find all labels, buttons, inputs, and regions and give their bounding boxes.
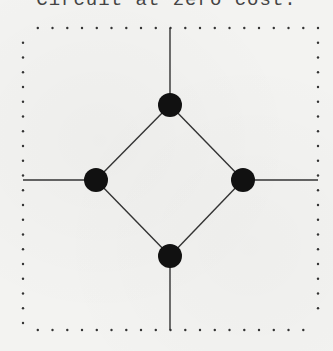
border-dot: [184, 329, 186, 331]
border-dot: [302, 27, 304, 29]
border-dot: [258, 329, 260, 331]
border-dot: [22, 189, 24, 191]
border-dot: [317, 263, 319, 265]
border-dot: [37, 329, 39, 331]
border-dot: [317, 189, 319, 191]
border-dot: [287, 329, 289, 331]
border-dot: [317, 145, 319, 147]
border-dot: [22, 233, 24, 235]
border-dot: [81, 27, 83, 29]
border-dot: [22, 307, 24, 309]
border-dot: [51, 27, 53, 29]
border-dot: [110, 329, 112, 331]
border-dot: [214, 329, 216, 331]
node-bottom: [158, 244, 182, 268]
border-dot: [140, 329, 142, 331]
border-dot: [66, 329, 68, 331]
border-dot: [317, 307, 319, 309]
node-top: [158, 93, 182, 117]
border-dot: [22, 263, 24, 265]
border-dot: [317, 248, 319, 250]
border-dot: [317, 219, 319, 221]
border-dot: [317, 71, 319, 73]
border-dot: [22, 248, 24, 250]
border-dot: [155, 329, 157, 331]
node-left: [84, 168, 108, 192]
border-dot: [228, 329, 230, 331]
border-dot: [96, 27, 98, 29]
edge-top-right: [170, 105, 243, 180]
diamond-circuit-diagram: [0, 0, 333, 351]
border-dot: [243, 27, 245, 29]
border-dot: [273, 329, 275, 331]
border-dot: [317, 130, 319, 132]
border-dot: [22, 174, 24, 176]
border-dot: [317, 292, 319, 294]
border-dot: [140, 27, 142, 29]
edge-right-bottom: [170, 180, 243, 256]
node-right: [231, 168, 255, 192]
border-dot: [22, 115, 24, 117]
border-dot: [81, 329, 83, 331]
border-dot: [199, 27, 201, 29]
border-dot: [214, 27, 216, 29]
border-dot: [317, 204, 319, 206]
border-dot: [22, 278, 24, 280]
border-dot: [317, 27, 319, 29]
border-dot: [317, 86, 319, 88]
border-dot: [22, 42, 24, 44]
border-dot: [302, 329, 304, 331]
border-dot: [22, 322, 24, 324]
edge-left-bottom: [96, 180, 170, 256]
border-dot: [243, 329, 245, 331]
border-dot: [22, 130, 24, 132]
edge-top-left: [96, 105, 170, 180]
circuit-nodes: [84, 93, 255, 268]
border-dot: [317, 233, 319, 235]
border-dot: [273, 27, 275, 29]
border-dot: [199, 329, 201, 331]
border-dot: [317, 160, 319, 162]
border-dot: [317, 101, 319, 103]
border-dot: [184, 27, 186, 29]
border-dot: [287, 27, 289, 29]
border-dot: [22, 292, 24, 294]
border-dot: [155, 27, 157, 29]
border-dot: [125, 329, 127, 331]
border-dot: [22, 56, 24, 58]
border-dot: [96, 329, 98, 331]
border-dot: [22, 219, 24, 221]
border-dot: [317, 174, 319, 176]
border-dot: [317, 115, 319, 117]
border-dot: [258, 27, 260, 29]
border-dot: [317, 56, 319, 58]
border-dot: [317, 42, 319, 44]
border-dot: [110, 27, 112, 29]
border-dot: [125, 27, 127, 29]
border-dot: [66, 27, 68, 29]
border-dot: [22, 71, 24, 73]
border-dot: [22, 86, 24, 88]
border-dot: [22, 101, 24, 103]
border-dot: [37, 27, 39, 29]
diamond-edges: [96, 105, 243, 256]
border-dot: [22, 145, 24, 147]
border-dot: [22, 204, 24, 206]
external-leads: [23, 28, 318, 330]
border-dot: [22, 160, 24, 162]
border-dot: [317, 278, 319, 280]
border-dot: [51, 329, 53, 331]
border-dot: [228, 27, 230, 29]
